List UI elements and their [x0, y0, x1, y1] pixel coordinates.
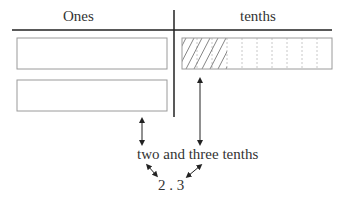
tenths-bar — [170, 38, 332, 69]
two-arrow — [148, 166, 156, 175]
ones-block-1 — [17, 38, 167, 69]
three-arrow — [188, 166, 200, 176]
words-label: two and three tenths — [137, 146, 258, 163]
number-label: 2 . 3 — [158, 177, 184, 194]
ones-block-2 — [17, 80, 167, 111]
place-value-diagram — [0, 0, 345, 202]
shaded-tenths — [170, 38, 242, 69]
